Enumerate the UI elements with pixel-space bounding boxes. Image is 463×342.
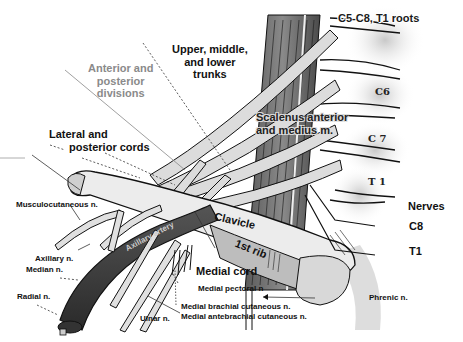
brachial-plexus-diagram: Upper, middle, and lower trunks Anterior…: [0, 0, 463, 342]
label-musculocutaneous: Musculocutaneous n.: [16, 200, 98, 209]
label-nerve-c8: C8: [409, 220, 423, 233]
label-cords-line1: Lateral and: [49, 128, 150, 141]
label-nerves-heading: Nerves: [408, 200, 445, 213]
label-phrenic: Phrenic n.: [369, 293, 408, 302]
label-roots: C5-C8, T1 roots: [338, 12, 419, 25]
label-divisions-line3: divisions: [88, 87, 153, 100]
label-axillary-n: Axillary n.: [35, 254, 73, 263]
label-ulnar-n: Ulnar n.: [140, 314, 170, 323]
label-scalenus-line1: Scalenus anterior: [256, 111, 348, 124]
label-scalenus-line2: and medius m.: [256, 124, 348, 137]
label-medial-brachial-cutaneous: Medial brachial cutaneous n.: [181, 302, 290, 311]
label-trunks-line1: Upper, middle,: [172, 43, 248, 56]
label-c6: C6: [375, 86, 390, 98]
label-divisions-line1: Anterior and: [88, 62, 153, 75]
label-median-n: Median n.: [26, 265, 63, 274]
label-c7: C 7: [368, 133, 386, 145]
phrenic-arrow-icon: [263, 294, 268, 300]
label-medial-antebrachial-cutaneous: Medial antebrachial cutaneous n.: [181, 312, 307, 321]
label-trunks-line3: trunks: [172, 68, 248, 81]
label-scalenus: Scalenus anterior and medius m.: [256, 111, 348, 136]
label-divisions: Anterior and posterior divisions: [88, 62, 153, 100]
label-radial-n: Radial n.: [17, 292, 50, 301]
label-medial-cord: Medial cord: [196, 265, 257, 278]
label-medial-pectoral: Medial pectoral n: [198, 284, 263, 293]
label-cords-line2: posterior cords: [49, 141, 150, 154]
label-t1-vertebra: T 1: [368, 176, 386, 188]
label-trunks-line2: and lower: [172, 56, 248, 69]
label-cords: Lateral and posterior cords: [49, 128, 150, 153]
label-trunks: Upper, middle, and lower trunks: [172, 43, 248, 81]
label-divisions-line2: posterior: [88, 75, 153, 88]
label-nerve-t1: T1: [409, 245, 422, 258]
